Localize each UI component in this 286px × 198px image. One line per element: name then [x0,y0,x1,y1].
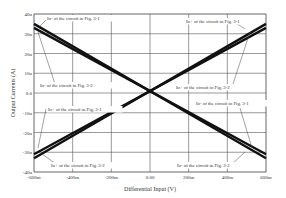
grid [34,14,266,172]
x-tick-label: -400m [66,175,79,180]
annotation-label: Io- of the circuit in Fig. 3-1 [196,101,249,106]
y-tick-label: 10u [25,71,33,76]
annotation-leader [38,32,55,84]
y-tick-label: 30u [25,32,33,37]
annotation-label: Io- of the circuit in Fig. 3-2 [177,163,230,168]
y-tick-labels: 40u30u20u10u0.0-10u-20u-30u-40u [23,12,33,175]
annotation-label: Io+ of the circuit in Fig. 3-1 [186,19,240,24]
annotation-label: Io- of the circuit in Fig. 3-1 [47,16,100,21]
y-tick-label: 0.0 [26,91,33,96]
y-tick-label: 40u [25,12,33,17]
annotation-label: Io+ of the circuit in Fig. 3-1 [48,107,102,112]
y-tick-label: -10u [23,111,33,116]
y-tick-label: -30u [23,150,33,155]
x-tick-label: 400m [222,175,234,180]
y-tick-label: 20u [25,52,33,57]
x-axis-label: Differential Input (V) [124,186,176,193]
x-tick-label: 600m [260,175,272,180]
x-tick-label: -600m [27,175,40,180]
annotation-label: Io+ of the circuit in Fig. 3-2 [176,85,230,90]
annotation-label: Io+ of the circuit in Fig. 3-2 [51,163,105,168]
y-axis-label: Output Currents (A) [10,69,17,118]
x-tick-label: 200m [183,175,195,180]
x-tick-labels: -600m-400m-200m0.00200m400m600m [27,175,271,180]
y-tick-label: -20u [23,131,33,136]
annotation-label: Io- of the circuit in Fig. 3-2 [40,83,93,88]
x-tick-label: 0.00 [146,175,155,180]
x-tick-label: -200m [105,175,118,180]
annotation-leader [38,109,46,148]
output-current-chart: Io- of the circuit in Fig. 3-1Io- of the… [0,0,286,198]
